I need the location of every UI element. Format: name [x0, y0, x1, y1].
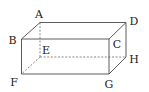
cuboid-svg: A B C D E F G H	[0, 0, 149, 92]
vertex-label-H: H	[129, 53, 139, 66]
vertex-label-E: E	[42, 44, 50, 57]
vertex-label-B: B	[8, 34, 16, 47]
vertex-label-G: G	[105, 78, 114, 91]
edge-GH	[109, 57, 126, 74]
vertex-label-F: F	[10, 76, 18, 89]
vertex-label-C: C	[113, 38, 121, 51]
edge-AB	[22, 23, 41, 40]
vertex-label-A: A	[34, 8, 44, 21]
hidden-edge-EF	[22, 57, 41, 74]
vertex-label-D: D	[130, 15, 139, 28]
cuboid-diagram: A B C D E F G H	[0, 0, 149, 92]
